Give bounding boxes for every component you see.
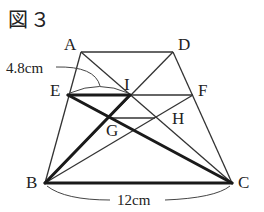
label-f: F	[198, 81, 207, 100]
segment-ec	[68, 95, 232, 183]
label-a: A	[64, 35, 77, 54]
arc-bc	[47, 186, 110, 200]
label-i: I	[124, 75, 130, 94]
label-b: B	[26, 173, 37, 192]
label-d: D	[178, 35, 190, 54]
label-h: H	[172, 109, 184, 128]
label-c: C	[238, 173, 249, 192]
trapezoid-diagram: A D E F I G H B C 4.8cm 12cm	[0, 0, 264, 212]
leader-ei	[56, 67, 100, 86]
measure-bc: 12cm	[117, 192, 151, 208]
arc-ei	[70, 87, 128, 94]
label-g: G	[106, 121, 118, 140]
diagonal-ac	[81, 52, 232, 183]
arc-bc-right	[165, 186, 230, 200]
measure-ei: 4.8cm	[6, 60, 43, 76]
label-e: E	[50, 81, 60, 100]
